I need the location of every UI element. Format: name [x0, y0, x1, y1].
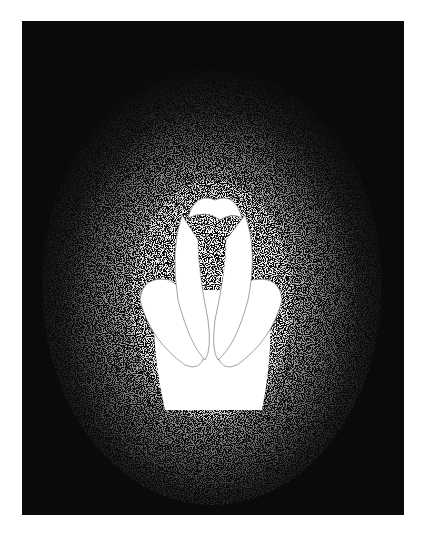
artwork	[0, 0, 423, 539]
illustration	[0, 0, 423, 539]
